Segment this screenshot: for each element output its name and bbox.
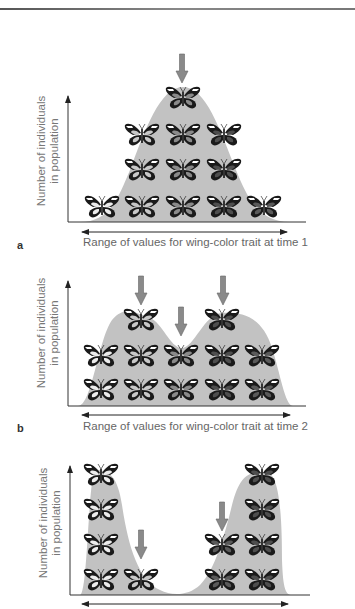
panel-c-graphics <box>70 464 310 604</box>
panel-c-y-axis-label: Number of individuals in population <box>37 453 63 593</box>
panel-b-x-axis-label: Range of values for wing-color trait at … <box>83 420 308 432</box>
panel-a-x-axis-label: Range of values for wing-color trait at … <box>83 236 308 248</box>
y-label-line1: Number of individuals <box>37 453 50 593</box>
panel-a-label: a <box>17 239 23 251</box>
y-label-line2: in population <box>48 263 61 403</box>
panel-a-y-axis-label: Number of individuals in population <box>35 81 61 221</box>
panel-b-label: b <box>17 422 24 434</box>
y-label-line2: in population <box>48 81 61 221</box>
panel-b-graphics <box>68 276 306 415</box>
y-label-line2: in population <box>50 453 63 593</box>
panel-b-y-axis-label: Number of individuals in population <box>35 263 61 403</box>
y-label-line1: Number of individuals <box>35 263 48 403</box>
panel-a-graphics <box>68 54 306 232</box>
y-label-line1: Number of individuals <box>35 81 48 221</box>
